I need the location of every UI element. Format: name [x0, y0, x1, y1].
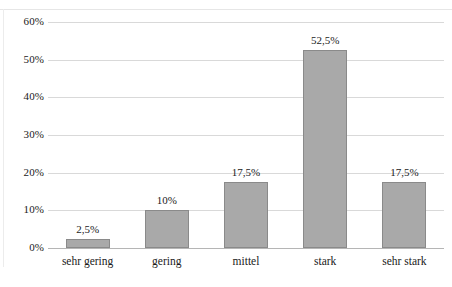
bar	[145, 210, 189, 248]
bar-value-label: 10%	[127, 195, 207, 206]
bar	[382, 182, 426, 248]
bar-value-label: 17,5%	[364, 167, 444, 178]
bar	[224, 182, 268, 248]
chart-frame-top-border	[0, 9, 452, 10]
y-axis: 0%10%20%30%40%50%60%	[0, 22, 44, 248]
bar-value-label: 2,5%	[48, 224, 128, 235]
x-axis-category-label: sehr stark	[354, 255, 452, 268]
bar-value-label: 17,5%	[206, 167, 286, 178]
bar-value-label: 52,5%	[285, 35, 365, 46]
y-axis-tick-label: 40%	[0, 91, 44, 102]
y-axis-tick-label: 20%	[0, 167, 44, 178]
y-axis-tick-label: 0%	[0, 242, 44, 253]
y-axis-tick-label: 30%	[0, 129, 44, 140]
y-axis-tick-label: 60%	[0, 16, 44, 27]
x-axis: sehr geringgeringmittelstarksehr stark	[48, 255, 444, 275]
bar-series: 2,5%10%17,5%52,5%17,5%	[48, 22, 444, 248]
bar-chart: 0%10%20%30%40%50%60% 2,5%10%17,5%52,5%17…	[0, 0, 452, 287]
y-axis-tick-label: 10%	[0, 204, 44, 215]
y-axis-tick-label: 50%	[0, 54, 44, 65]
bar	[303, 50, 347, 248]
axis-baseline	[48, 248, 444, 249]
bar	[66, 239, 110, 248]
